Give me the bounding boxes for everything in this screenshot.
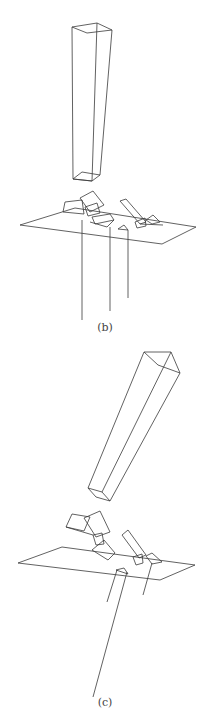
caption-c: (c): [85, 696, 125, 709]
tall-prism: [72, 23, 112, 181]
caption-b: (b): [85, 321, 125, 334]
fragments: [63, 191, 163, 230]
panel-c: (c): [0, 345, 207, 726]
wireframe-scene-b: [0, 0, 207, 345]
ground-plane: [18, 547, 195, 580]
fragments: [66, 511, 162, 574]
wireframe-scene-c: [0, 345, 207, 726]
slanted-lines: [93, 563, 152, 697]
tilted-prism: [88, 352, 180, 501]
hanging-lines: [82, 220, 128, 320]
panel-b: (b): [0, 0, 207, 345]
